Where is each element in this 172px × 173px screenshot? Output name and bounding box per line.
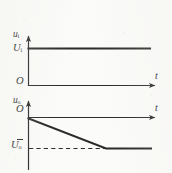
bottom-level-label: Uo bbox=[11, 140, 22, 151]
output-voltage-trace bbox=[29, 119, 152, 149]
waveform-plot-canvas bbox=[0, 0, 172, 173]
top-x-axis-label: t bbox=[155, 71, 158, 81]
output-voltage-panel bbox=[29, 101, 156, 170]
top-y-axis-label: ui bbox=[13, 30, 19, 40]
bottom-origin-label: O bbox=[16, 104, 24, 115]
top-level-label: Ui bbox=[13, 43, 22, 54]
top-origin-label: O bbox=[16, 76, 24, 87]
waveform-figure: ui Ui O t uo O t Uo bbox=[0, 0, 172, 173]
bottom-x-axis-label: t bbox=[155, 103, 158, 113]
input-voltage-panel bbox=[29, 36, 156, 86]
